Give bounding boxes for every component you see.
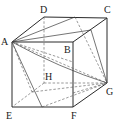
label-A: A [1, 36, 9, 47]
cube-diagram: A B C D E F G H [0, 0, 117, 122]
label-B: B [64, 44, 71, 55]
label-D: D [40, 4, 47, 15]
label-G: G [106, 86, 113, 97]
visible-edges [12, 17, 107, 107]
label-F: F [71, 110, 77, 121]
label-H: H [45, 71, 52, 82]
label-E: E [6, 110, 12, 121]
label-C: C [104, 4, 111, 15]
